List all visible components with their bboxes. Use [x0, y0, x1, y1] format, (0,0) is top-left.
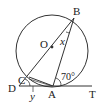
- angle-x-arc: [66, 32, 69, 33]
- label-O: O: [40, 38, 48, 50]
- angle-y-arc: [25, 79, 30, 86]
- label-D: D: [8, 82, 16, 94]
- label-C: C: [18, 74, 25, 86]
- center-point: [51, 46, 54, 49]
- label-70: 70°: [61, 71, 75, 82]
- label-A: A: [48, 88, 56, 100]
- label-y: y: [29, 90, 35, 102]
- geometry-diagram: B O x 70° C D A T y: [0, 0, 105, 110]
- label-T: T: [89, 88, 96, 100]
- label-B: B: [73, 5, 80, 17]
- label-x: x: [59, 35, 65, 47]
